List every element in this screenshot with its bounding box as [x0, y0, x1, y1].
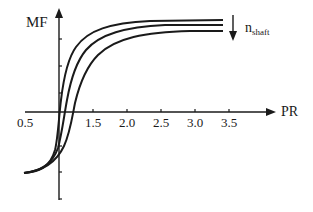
x-tick-label: 3.0: [187, 116, 203, 129]
x-tick-label: 2.0: [119, 116, 135, 129]
nshaft-sub: shaft: [252, 27, 270, 37]
x-tick-label: 1.5: [85, 116, 101, 129]
x-tick-label: 3.5: [221, 116, 237, 129]
y-axis-label: MF: [26, 15, 48, 30]
nshaft-arrow-down-icon: [229, 31, 237, 41]
nshaft-annotation: nshaft: [245, 21, 270, 37]
nshaft-main: n: [245, 20, 252, 35]
x-axis-label: PR: [281, 105, 298, 119]
x-tick-label: 0.5: [17, 116, 33, 129]
y-axis-arrow-icon: [55, 8, 63, 18]
x-tick-label: 2.5: [153, 116, 169, 129]
curve-1: [24, 20, 223, 173]
x-axis-arrow-icon: [266, 108, 276, 116]
